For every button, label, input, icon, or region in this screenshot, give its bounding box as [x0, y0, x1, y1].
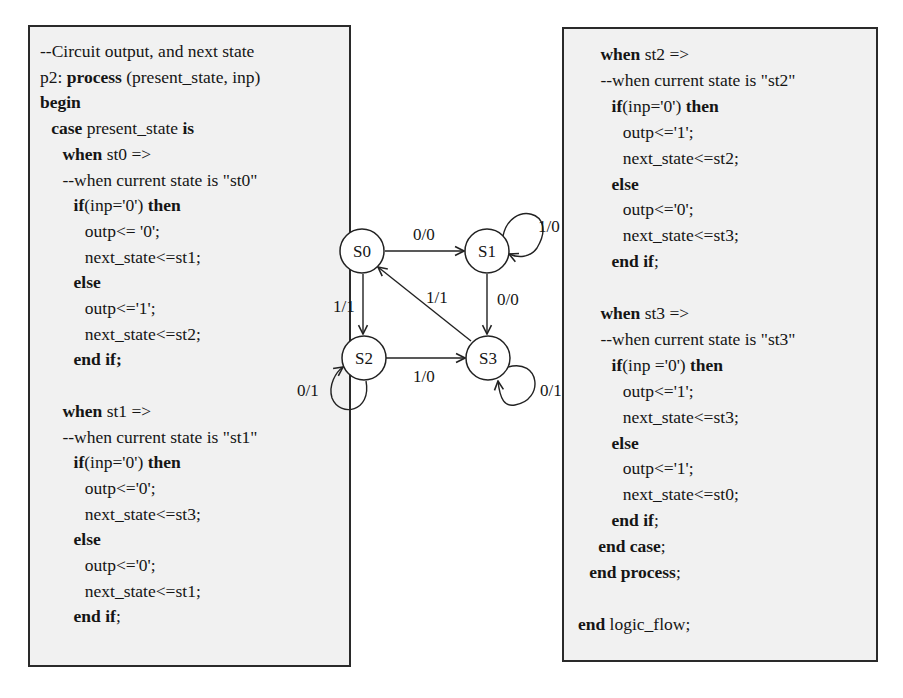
- edge-s3-s0: [378, 267, 471, 341]
- state-label-s3: S3: [479, 349, 497, 368]
- state-diagram: S0 S1 S2 S3 0/0 1/1 1/0 0/0 0/1 1/0 0/1 …: [0, 0, 903, 698]
- state-label-s2: S2: [355, 349, 373, 368]
- edge-label-s2-s3: 1/0: [413, 367, 435, 386]
- edge-label-s0-s1: 0/0: [413, 225, 435, 244]
- edge-label-s0-s2: 1/1: [333, 297, 355, 316]
- edge-label-s2-self: 0/1: [297, 381, 319, 400]
- edge-label-s1-self: 1/0: [538, 217, 560, 236]
- edge-label-s3-self: 0/1: [540, 381, 562, 400]
- state-label-s1: S1: [478, 242, 496, 261]
- edge-label-s1-s3: 0/0: [497, 290, 519, 309]
- state-label-s0: S0: [353, 242, 371, 261]
- edge-label-s3-s0: 1/1: [426, 288, 448, 307]
